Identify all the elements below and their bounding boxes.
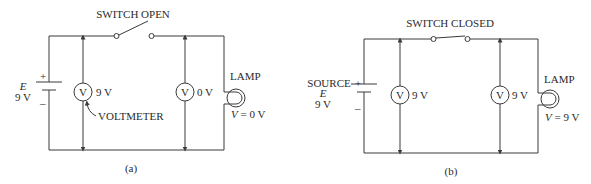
voltmeter-b2-glyph: V bbox=[496, 89, 504, 101]
voltmeter-a-label: VOLTMETER bbox=[98, 110, 164, 122]
switch-b-label: SWITCH CLOSED bbox=[406, 17, 494, 29]
switch-a-label: SWITCH OPEN bbox=[96, 8, 170, 20]
voltmeter-b1-glyph: V bbox=[396, 89, 404, 101]
source-a-value: 9 V bbox=[15, 91, 31, 103]
source-b-value: 9 V bbox=[315, 98, 331, 110]
lamp-a-v-value: = 0 V bbox=[238, 108, 266, 120]
battery-a-minus: – bbox=[39, 97, 46, 109]
lamp-b-label: LAMP bbox=[544, 73, 575, 85]
switch-b-contact-right bbox=[465, 37, 470, 42]
voltmeter-b2-reading: 9 V bbox=[512, 89, 528, 101]
voltmeter-a2-glyph: V bbox=[181, 86, 189, 98]
voltmeter-a-pointer bbox=[87, 103, 96, 116]
panel-a-switch-open: SWITCH OPEN + – E 9 V V 9 V V 0 V VOLTME… bbox=[15, 8, 265, 175]
lamp-b-v-value: = 9 V bbox=[552, 111, 580, 123]
switch-a-contact-left bbox=[114, 34, 119, 39]
panel-b-switch-closed: SWITCH CLOSED SOURCE E 9 V + – V 9 V V 9… bbox=[307, 17, 579, 178]
caption-a: (a) bbox=[125, 162, 138, 175]
lamp-a-voltage: V = 0 V bbox=[231, 108, 265, 120]
wire-b-right-lower bbox=[364, 92, 538, 153]
source-b-label: SOURCE bbox=[307, 77, 351, 89]
voltmeter-a1-reading: 9 V bbox=[96, 86, 112, 98]
switch-b-blade bbox=[436, 36, 465, 38]
battery-b-plus: + bbox=[355, 77, 361, 89]
lamp-b-voltage: V = 9 V bbox=[545, 111, 579, 123]
switch-b-contact-left bbox=[431, 37, 436, 42]
voltmeter-a2-reading: 0 V bbox=[197, 86, 213, 98]
switch-a-contact-right bbox=[149, 34, 154, 39]
battery-a-plus: + bbox=[40, 70, 46, 82]
battery-b-minus: – bbox=[354, 102, 361, 114]
lamp-a-label: LAMP bbox=[230, 70, 261, 82]
circuit-diagrams: SWITCH OPEN + – E 9 V V 9 V V 0 V VOLTME… bbox=[0, 0, 591, 184]
voltmeter-a1-glyph: V bbox=[79, 86, 87, 98]
wire-b-top-right bbox=[470, 39, 538, 93]
caption-b: (b) bbox=[445, 165, 458, 178]
switch-a-blade bbox=[119, 21, 148, 35]
voltmeter-b1-reading: 9 V bbox=[412, 89, 428, 101]
